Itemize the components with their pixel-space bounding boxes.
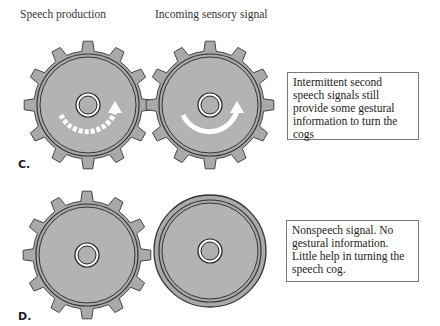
note-box-c: Intermittent second speech signals still…	[287, 72, 419, 140]
panel-label-d: D.	[18, 310, 31, 323]
note-box-d: Nonspeech signal. No gestural informatio…	[286, 220, 419, 282]
disc-nonspeech-d	[154, 195, 266, 307]
cog-speech-production-c	[24, 41, 152, 169]
panel-label-c: C.	[18, 158, 30, 171]
cog-speech-production-d	[23, 191, 151, 319]
cog-incoming-signal-c	[146, 41, 274, 169]
